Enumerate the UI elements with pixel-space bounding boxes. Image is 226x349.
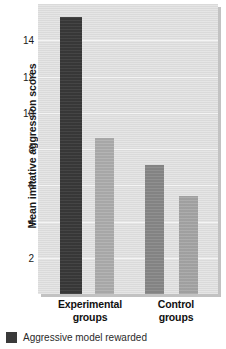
bar-chart-figure: Mean imitative aggression scores 14 12 1… bbox=[0, 0, 226, 349]
bar-control-1 bbox=[145, 165, 164, 294]
bar-texture bbox=[179, 196, 198, 294]
y-tick-label-14: 14 bbox=[4, 35, 34, 46]
legend-label-aggressive-model-rewarded: Aggressive model rewarded bbox=[23, 332, 147, 343]
group-label-control-line1: Control bbox=[140, 298, 212, 311]
group-label-experimental-line2: groups bbox=[40, 311, 140, 324]
bar-texture bbox=[145, 165, 164, 294]
bar-experimental-1 bbox=[60, 17, 82, 294]
y-tick-label-12: 12 bbox=[4, 71, 34, 82]
bar-control-2 bbox=[179, 196, 198, 294]
bar-texture bbox=[60, 17, 82, 294]
group-label-experimental-line1: Experimental bbox=[40, 298, 140, 311]
plot-area bbox=[38, 4, 218, 294]
y-tick-label-4: 4 bbox=[4, 216, 34, 227]
y-tick-label-2: 2 bbox=[4, 252, 34, 263]
group-label-experimental: Experimental groups bbox=[40, 298, 140, 324]
y-tick-label-10: 10 bbox=[4, 107, 34, 118]
chart-legend: Aggressive model rewarded bbox=[6, 332, 147, 343]
legend-swatch-aggressive-model-rewarded bbox=[6, 332, 17, 343]
y-tick-label-8: 8 bbox=[4, 144, 34, 155]
bar-experimental-2 bbox=[95, 138, 114, 294]
group-label-control-line2: groups bbox=[140, 311, 212, 324]
y-tick-label-6: 6 bbox=[4, 180, 34, 191]
group-label-control: Control groups bbox=[140, 298, 212, 324]
bar-texture bbox=[95, 138, 114, 294]
